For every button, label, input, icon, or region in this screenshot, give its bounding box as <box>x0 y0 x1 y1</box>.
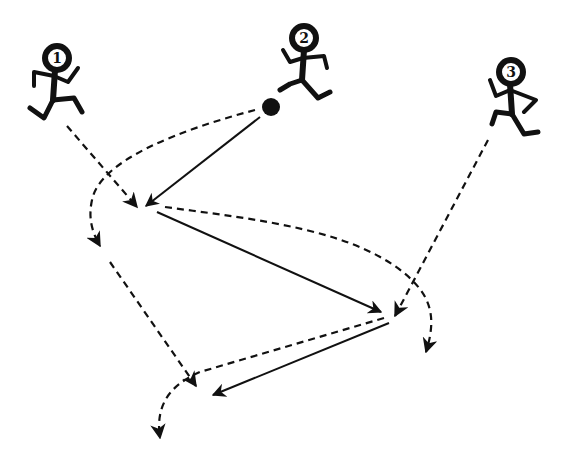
run-2-overlap-left <box>90 110 255 246</box>
pass-3-to-1 <box>213 323 389 395</box>
run-3-to-B <box>395 140 488 316</box>
player-3: 3 <box>490 60 538 134</box>
player-1: 1 <box>30 46 82 118</box>
player-2-legs <box>280 80 330 98</box>
run-2-down-to-C <box>110 262 196 386</box>
player-1-number: 1 <box>52 50 62 66</box>
run-lines <box>67 110 488 438</box>
run-1-from-A-right <box>165 207 431 352</box>
ball <box>262 98 280 116</box>
player-2-number: 2 <box>299 30 309 46</box>
player-3-number: 3 <box>506 64 516 80</box>
player-1-legs <box>30 98 82 118</box>
player-3-legs <box>492 112 538 134</box>
pass-1-to-3 <box>157 212 381 312</box>
drill-diagram: 1 2 3 <box>0 0 570 469</box>
player-2: 2 <box>280 26 330 98</box>
player-2-body <box>302 50 304 80</box>
run-3-from-B-to-C <box>159 318 384 438</box>
pass-2-to-1 <box>146 117 260 206</box>
run-1-to-A <box>67 126 137 207</box>
